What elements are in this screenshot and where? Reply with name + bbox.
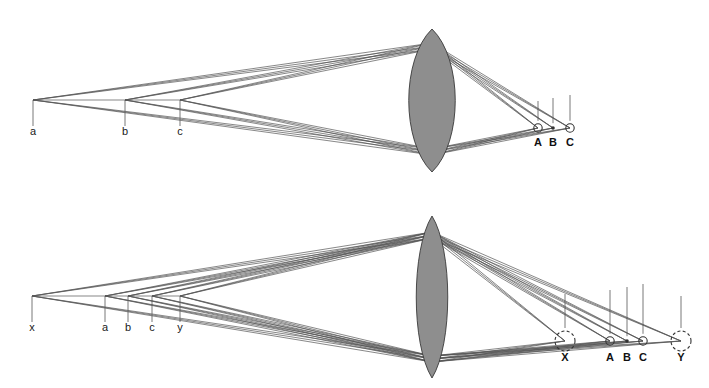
object-label-b: b — [122, 125, 128, 137]
object-point-a: a — [30, 100, 37, 137]
ray-object-to-lens — [128, 235, 432, 296]
ray-object-to-lens — [128, 296, 432, 359]
image-label-C: C — [566, 136, 574, 148]
ray-lens-to-image — [432, 238, 681, 341]
ray-lens-to-image — [432, 235, 627, 341]
object-label-y: y — [177, 321, 183, 333]
image-label-A: A — [534, 136, 542, 148]
image-label-C: C — [639, 351, 647, 363]
ray-lens-to-image — [432, 232, 681, 341]
image-point-Y: Y — [671, 296, 691, 363]
ray-object-to-lens — [32, 232, 432, 296]
object-label-x: x — [29, 321, 35, 333]
object-label-a: a — [102, 321, 109, 333]
ray-object-to-lens — [180, 238, 432, 296]
ray-object-to-lens — [125, 100, 432, 155]
ray-object-to-lens — [180, 49, 432, 100]
ray-object-to-lens — [152, 232, 432, 296]
ray-object-to-lens — [33, 43, 432, 100]
ray-object-to-lens — [128, 296, 432, 362]
ray-object-to-lens — [180, 100, 432, 149]
ray-object-to-lens — [180, 100, 432, 155]
ray-lens-to-image — [432, 238, 565, 341]
object-label-b: b — [125, 321, 131, 333]
object-point-b: b — [125, 296, 131, 333]
image-spot-B — [625, 339, 629, 343]
object-label-a: a — [30, 125, 37, 137]
ray-object-to-lens — [32, 296, 432, 362]
ray-object-to-lens — [180, 296, 432, 356]
ray-object-to-lens — [180, 235, 432, 296]
image-label-A: A — [606, 351, 614, 363]
ray-bundle-group — [32, 232, 681, 362]
top-diagram-panel: abcABC — [0, 0, 709, 194]
ray-object-to-lens — [32, 296, 432, 356]
ray-object-to-lens — [33, 100, 432, 155]
object-point-x: x — [29, 296, 35, 333]
ray-object-to-lens — [180, 100, 432, 152]
image-label-X: X — [561, 351, 569, 363]
object-label-c: c — [177, 125, 183, 137]
ray-object-to-lens — [152, 296, 432, 359]
image-label-B: B — [549, 136, 557, 148]
image-label-Y: Y — [677, 351, 685, 363]
object-point-a: a — [102, 296, 109, 333]
ray-lens-to-image — [432, 238, 643, 341]
image-markers-group: ABC — [534, 95, 574, 148]
ray-lens-to-image — [432, 232, 627, 341]
ray-object-to-lens — [125, 49, 432, 100]
ray-object-to-lens — [180, 43, 432, 100]
image-point-B: B — [623, 287, 631, 363]
ray-object-to-lens — [180, 296, 432, 359]
ray-diagram-figure: abcABC xabcyXABCY — [0, 0, 709, 388]
ray-object-to-lens — [125, 43, 432, 100]
ray-object-to-lens — [180, 296, 432, 362]
bottom-diagram-panel: xabcyXABCY — [0, 194, 709, 388]
object-point-b: b — [122, 100, 128, 137]
ray-object-to-lens — [105, 232, 432, 296]
ray-object-to-lens — [152, 296, 432, 356]
ray-object-to-lens — [125, 46, 432, 100]
ray-object-to-lens — [128, 232, 432, 296]
ray-object-to-lens — [32, 235, 432, 296]
ray-object-to-lens — [152, 296, 432, 362]
ray-lens-to-image — [432, 238, 610, 341]
object-markers-group: xabcy — [29, 296, 183, 333]
ray-lens-to-image — [432, 238, 627, 341]
ray-object-to-lens — [180, 232, 432, 296]
ray-object-to-lens — [152, 238, 432, 296]
ray-lens-to-image — [432, 235, 565, 341]
ray-object-to-lens — [125, 100, 432, 152]
image-spot-B — [551, 126, 555, 130]
ray-lens-to-image — [432, 235, 681, 341]
image-point-B: B — [549, 98, 557, 148]
ray-object-to-lens — [152, 235, 432, 296]
ray-bundle-group — [33, 43, 570, 155]
image-label-B: B — [623, 351, 631, 363]
ray-object-to-lens — [180, 46, 432, 100]
object-label-c: c — [149, 321, 155, 333]
image-point-C: C — [566, 95, 574, 148]
ray-object-to-lens — [125, 100, 432, 149]
